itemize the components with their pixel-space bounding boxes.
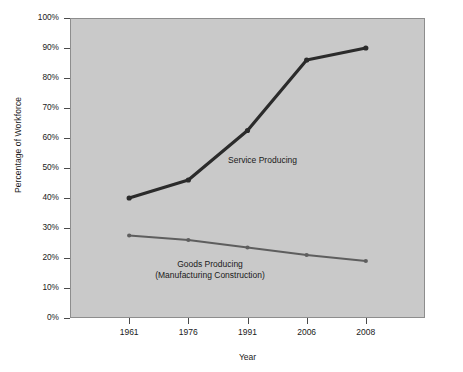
series-service-producing: [127, 45, 369, 200]
data-point: [245, 245, 249, 249]
series-label-goods-line1: Goods Producing: [115, 259, 305, 270]
data-point: [186, 177, 191, 182]
series-label-service-text: Service Producing: [228, 155, 297, 165]
data-point: [364, 259, 368, 263]
series-label-goods-line2: (Manufacturing Construction): [115, 270, 305, 281]
data-point: [304, 57, 309, 62]
data-point: [305, 253, 309, 257]
chart-container: Percentage of Workforce 0%10%20%30%40%50…: [0, 0, 463, 372]
series-line: [129, 48, 366, 198]
series-layer: [0, 0, 463, 372]
series-label-goods: Goods Producing (Manufacturing Construct…: [115, 259, 305, 281]
data-point: [245, 128, 250, 133]
data-point: [186, 238, 190, 242]
x-axis-title: Year: [70, 352, 425, 362]
data-point: [363, 45, 368, 50]
data-point: [127, 195, 132, 200]
series-label-service: Service Producing: [228, 155, 297, 166]
data-point: [127, 233, 131, 237]
